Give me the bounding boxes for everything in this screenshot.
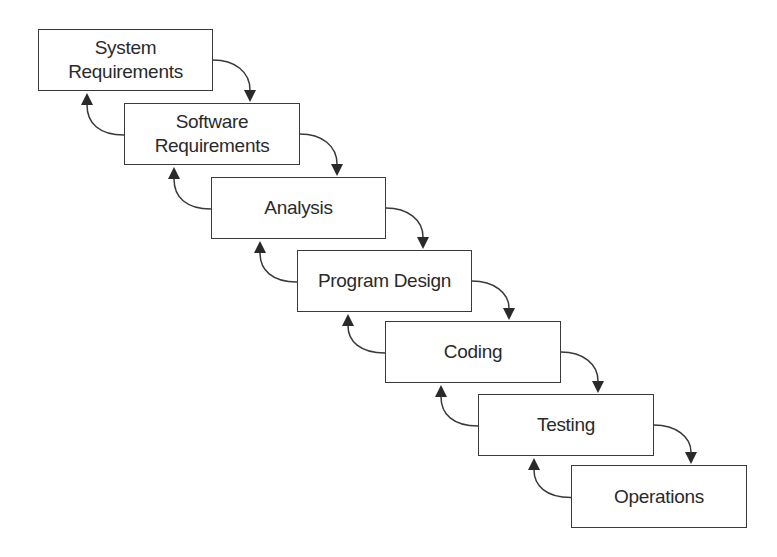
forward-arrow-analysis-to-program-design bbox=[386, 208, 423, 237]
arrowhead-up-icon bbox=[168, 167, 180, 179]
arrowhead-up-icon bbox=[528, 458, 540, 470]
arrowhead-down-icon bbox=[685, 452, 697, 464]
stage-label: Testing bbox=[537, 413, 595, 437]
back-arrow-operations-to-testing bbox=[534, 470, 571, 498]
forward-arrow-testing-to-operations bbox=[654, 425, 691, 452]
arrowhead-up-icon bbox=[342, 314, 354, 326]
arrowhead-down-icon bbox=[592, 381, 604, 393]
arrowhead-up-icon bbox=[81, 93, 93, 105]
stage-operations: Operations bbox=[571, 465, 747, 528]
back-arrow-coding-to-program-design bbox=[348, 326, 385, 353]
arrowhead-up-icon bbox=[254, 241, 266, 253]
stage-label: Coding bbox=[444, 340, 502, 364]
forward-arrow-software-requirements-to-analysis bbox=[300, 134, 337, 164]
arrowhead-down-icon bbox=[244, 90, 256, 102]
arrowhead-up-icon bbox=[435, 385, 447, 397]
stage-testing: Testing bbox=[478, 394, 654, 456]
stage-label: Program Design bbox=[318, 269, 451, 293]
stage-system-requirements: System Requirements bbox=[38, 29, 213, 91]
arrowhead-down-icon bbox=[417, 237, 429, 249]
stage-label: Software Requirements bbox=[155, 110, 270, 158]
stage-program-design: Program Design bbox=[297, 250, 472, 312]
arrowhead-down-icon bbox=[331, 164, 343, 176]
arrowhead-down-icon bbox=[503, 308, 515, 320]
back-arrow-program-design-to-analysis bbox=[260, 253, 297, 282]
back-arrow-analysis-to-software-requirements bbox=[174, 179, 211, 209]
back-arrow-software-requirements-to-system-requirements bbox=[87, 105, 124, 135]
stage-software-requirements: Software Requirements bbox=[124, 103, 300, 165]
waterfall-diagram: System Requirements Software Requirement… bbox=[0, 0, 777, 557]
forward-arrow-coding-to-testing bbox=[561, 352, 598, 381]
stage-label: Analysis bbox=[264, 196, 332, 220]
stage-label: Operations bbox=[614, 485, 704, 509]
forward-arrow-program-design-to-coding bbox=[472, 281, 509, 308]
stage-analysis: Analysis bbox=[211, 177, 386, 239]
back-arrow-testing-to-coding bbox=[441, 397, 478, 426]
stage-label: System Requirements bbox=[68, 36, 183, 84]
forward-arrow-system-requirements-to-software-requirements bbox=[213, 60, 250, 90]
stage-coding: Coding bbox=[385, 321, 561, 383]
